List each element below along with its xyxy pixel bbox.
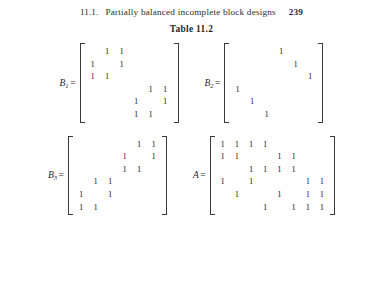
matrix-cell bbox=[259, 70, 274, 83]
matrix-cell: 1 bbox=[103, 175, 118, 188]
matrix-cell bbox=[258, 188, 272, 201]
matrix-cell: 1 bbox=[244, 175, 258, 188]
matrix-cell bbox=[132, 201, 147, 214]
matrix-cell bbox=[74, 163, 89, 176]
matrix-row-bottom: B3= 111111111111 A= 11111111111111111111… bbox=[0, 136, 383, 216]
matrix-a-grid: 111111111111111111111111 bbox=[215, 136, 331, 216]
matrix-cell bbox=[115, 108, 130, 121]
matrix-cell bbox=[146, 175, 161, 188]
matrix-cell: 1 bbox=[230, 83, 245, 96]
matrix-b3: B3= 111111111111 bbox=[48, 136, 167, 216]
matrix-cell: 1 bbox=[146, 150, 161, 163]
matrix-cell: 1 bbox=[230, 188, 244, 201]
matrix-cell bbox=[315, 138, 329, 151]
matrix-a-label: A= bbox=[193, 170, 206, 180]
matrix-cell: 1 bbox=[146, 138, 161, 151]
matrix-b1-brackets: 111111111111 bbox=[80, 43, 179, 123]
matrix-cell: 1 bbox=[216, 150, 230, 163]
matrix-cell: 1 bbox=[301, 188, 315, 201]
right-bracket bbox=[330, 136, 335, 216]
matrix-cell: 1 bbox=[303, 70, 318, 83]
matrix-cell bbox=[100, 95, 115, 108]
matrix-cell: 1 bbox=[115, 45, 130, 58]
matrix-cell: 1 bbox=[158, 83, 173, 96]
matrix-cell bbox=[301, 163, 315, 176]
matrix-cell bbox=[230, 108, 245, 121]
matrix-cell bbox=[259, 95, 274, 108]
matrix-cell: 1 bbox=[74, 201, 89, 214]
matrix-cell bbox=[274, 108, 289, 121]
section-number: 11.1. bbox=[80, 7, 99, 17]
matrix-cell: 1 bbox=[315, 201, 329, 214]
matrix-cell bbox=[129, 70, 144, 83]
matrix-cell bbox=[245, 58, 260, 71]
right-bracket bbox=[318, 43, 323, 123]
matrix-cell: 1 bbox=[315, 175, 329, 188]
matrix-cell: 1 bbox=[100, 45, 115, 58]
matrix-cell bbox=[86, 108, 101, 121]
matrix-cell: 1 bbox=[129, 108, 144, 121]
matrix-cell: 1 bbox=[132, 138, 147, 151]
matrix-a-brackets: 111111111111111111111111 bbox=[210, 136, 336, 216]
matrix-b2-label: B2= bbox=[205, 78, 221, 88]
matrix-cell: 1 bbox=[258, 163, 272, 176]
matrix-cell bbox=[103, 138, 118, 151]
matrix-cell bbox=[287, 175, 301, 188]
matrix-cell bbox=[115, 83, 130, 96]
matrix-cell bbox=[132, 175, 147, 188]
matrix-cell bbox=[303, 45, 318, 58]
matrix-cell: 1 bbox=[272, 163, 286, 176]
matrix-cell bbox=[216, 201, 230, 214]
matrix-cell: 1 bbox=[74, 188, 89, 201]
matrix-cell bbox=[88, 188, 103, 201]
matrix-cell bbox=[132, 188, 147, 201]
matrix-cell: 1 bbox=[258, 138, 272, 151]
matrix-cell: 1 bbox=[315, 188, 329, 201]
matrix-cell: 1 bbox=[115, 58, 130, 71]
matrix-cell bbox=[315, 163, 329, 176]
matrix-cell bbox=[86, 95, 101, 108]
matrix-area: B1= 111111111111 B2= 111111 B3= 11111111… bbox=[0, 43, 383, 215]
matrix-cell bbox=[274, 95, 289, 108]
matrix-cell bbox=[230, 201, 244, 214]
matrix-cell: 1 bbox=[258, 201, 272, 214]
matrix-cell bbox=[88, 163, 103, 176]
matrix-cell bbox=[303, 83, 318, 96]
matrix-cell bbox=[288, 70, 303, 83]
running-head: 11.1. Partially balanced incomplete bloc… bbox=[0, 7, 383, 17]
matrix-cell: 1 bbox=[144, 83, 159, 96]
matrix-cell bbox=[74, 150, 89, 163]
matrix-cell bbox=[288, 83, 303, 96]
matrix-cell bbox=[272, 138, 286, 151]
matrix-cell: 1 bbox=[301, 201, 315, 214]
matrix-cell bbox=[303, 108, 318, 121]
matrix-cell bbox=[158, 45, 173, 58]
matrix-cell: 1 bbox=[129, 95, 144, 108]
right-bracket bbox=[162, 136, 167, 216]
matrix-cell bbox=[245, 70, 260, 83]
matrix-cell: 1 bbox=[272, 150, 286, 163]
matrix-cell bbox=[132, 150, 147, 163]
matrix-cell bbox=[146, 188, 161, 201]
matrix-cell bbox=[230, 95, 245, 108]
matrix-cell: 1 bbox=[287, 150, 301, 163]
matrix-cell bbox=[230, 175, 244, 188]
matrix-b2-grid: 111111 bbox=[229, 43, 318, 123]
matrix-b3-label: B3= bbox=[48, 170, 64, 180]
matrix-cell: 1 bbox=[245, 95, 260, 108]
matrix-cell bbox=[288, 108, 303, 121]
matrix-cell: 1 bbox=[216, 175, 230, 188]
matrix-cell: 1 bbox=[88, 201, 103, 214]
matrix-cell bbox=[288, 95, 303, 108]
matrix-cell bbox=[74, 175, 89, 188]
matrix-cell bbox=[259, 83, 274, 96]
matrix-cell: 1 bbox=[274, 45, 289, 58]
matrix-cell bbox=[303, 95, 318, 108]
matrix-cell bbox=[288, 45, 303, 58]
matrix-cell: 1 bbox=[244, 163, 258, 176]
matrix-cell: 1 bbox=[117, 150, 132, 163]
matrix-cell bbox=[259, 45, 274, 58]
matrix-cell: 1 bbox=[230, 150, 244, 163]
matrix-cell bbox=[86, 45, 101, 58]
matrix-cell: 1 bbox=[244, 138, 258, 151]
